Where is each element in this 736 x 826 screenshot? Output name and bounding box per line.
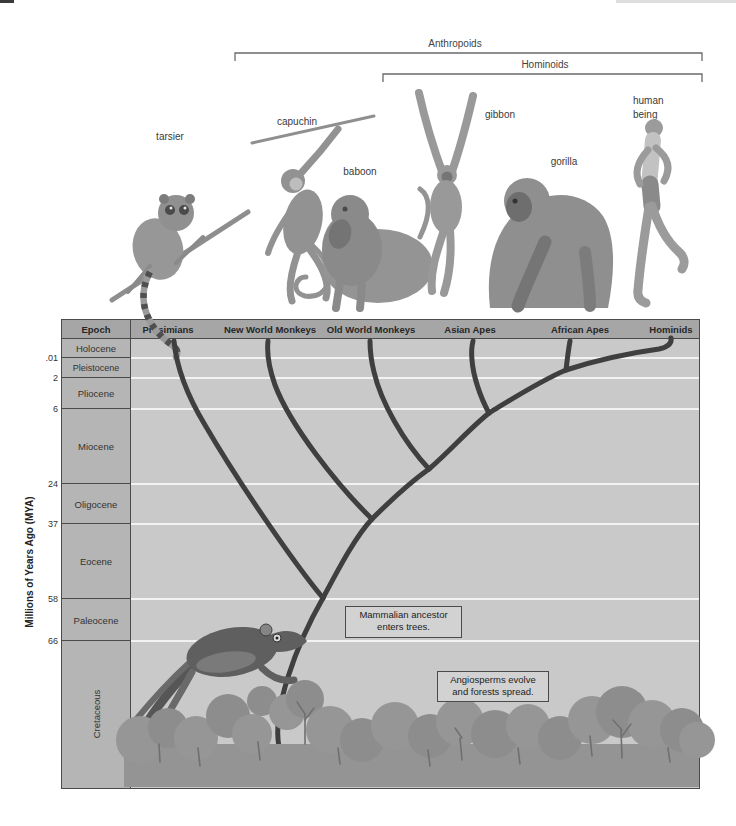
gorilla-illustration	[489, 178, 613, 308]
baboon-illustration	[322, 189, 433, 308]
branch-apes	[429, 413, 489, 469]
branch-african-apes	[566, 341, 570, 370]
phylogenetic-tree	[174, 338, 671, 747]
branch-african-hominid	[489, 370, 566, 413]
branch-old-world-monkeys	[370, 341, 429, 469]
human-illustration	[637, 119, 684, 303]
branch-hominids	[566, 338, 671, 370]
hominoids-bracket	[383, 74, 702, 82]
anthropoids-bracket	[235, 53, 702, 61]
tarsier-illustration	[112, 194, 248, 357]
mammal-ancestor-note: Mammalian ancestor enters trees.	[345, 606, 462, 638]
forest-illustration	[116, 680, 715, 787]
angiosperm-note: Angiosperms evolve and forests spread.	[437, 671, 549, 702]
figure-artwork	[0, 0, 736, 826]
textbook-figure-page: Anthropoids Hominoids tarsier capuchin b…	[0, 0, 736, 826]
branch-asian-apes	[472, 341, 489, 413]
branch-prosimians	[174, 341, 323, 598]
branch-new-world-monkeys	[268, 341, 372, 519]
branch-anthropoid-1	[323, 519, 372, 598]
branch-anthropoid-2	[372, 469, 429, 519]
